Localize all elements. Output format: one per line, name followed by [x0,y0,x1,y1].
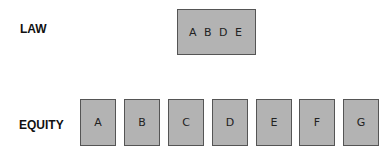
equity-box-label: F [314,116,320,129]
equity-box-e: E [256,99,292,146]
equity-box-g: G [343,99,379,146]
equity-box-label: G [357,116,366,129]
equity-label: EQUITY [19,118,64,132]
law-label: LAW [20,22,47,36]
equity-box-f: F [299,99,335,146]
equity-box-b: B [124,99,160,146]
law-box-text: A B D E [189,26,244,39]
equity-box-d: D [212,99,248,146]
equity-box-a: A [80,99,116,146]
law-box: A B D E [177,9,256,55]
equity-box-label: D [226,116,234,129]
equity-box-label: E [271,116,278,129]
equity-box-label: C [182,116,190,129]
equity-box-label: B [138,116,146,129]
equity-box-label: A [94,116,102,129]
equity-box-c: C [168,99,204,146]
